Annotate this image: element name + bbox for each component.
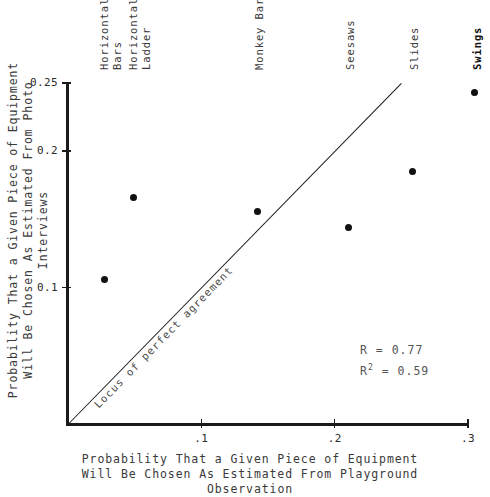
point-category-label: Monkey Bars [253, 0, 265, 70]
y-axis-title-line2: Will Be Chosen As Estimated From Photo I… [21, 50, 51, 410]
point-category-label: Seesaws [344, 19, 356, 70]
point-category-label: Slides [408, 27, 420, 70]
correlation-statistics: R = 0.77 R2 = 0.59 [360, 342, 429, 380]
x-axis-title: Probability That a Given Piece of Equipm… [40, 452, 460, 497]
data-point [254, 208, 261, 215]
r-value-label: R = 0.77 [360, 342, 429, 359]
point-category-label-line: Monkey Bars [253, 0, 265, 70]
data-point [409, 168, 416, 175]
point-category-label-line: Bars [111, 41, 123, 70]
point-category-label: HorizontalLadder [127, 0, 139, 70]
x-axis-tick-label: .1 [181, 432, 221, 445]
x-axis-tick [467, 419, 469, 428]
x-axis-title-line2: Will Be Chosen As Estimated From Playgro… [40, 467, 460, 497]
data-point [345, 224, 352, 231]
y-axis-title-line1: Probability That a Given Piece of Equipm… [6, 50, 21, 410]
point-category-label-line: Ladder [140, 27, 152, 70]
r-squared-suffix: = 0.59 [374, 364, 429, 378]
point-category-label-line: Seesaws [344, 19, 356, 70]
r-squared-value-label: R2 = 0.59 [360, 359, 429, 380]
y-axis-title: Probability That a Given Piece of Equipm… [6, 50, 51, 410]
y-axis-line [66, 83, 69, 426]
x-axis-line [66, 423, 469, 426]
point-category-label-line: Slides [408, 27, 420, 70]
point-category-label: HorizontalBars [98, 0, 110, 70]
r-squared-prefix: R [360, 364, 368, 378]
point-category-label-line: Swings [471, 27, 483, 70]
point-category-label-line: Horizontal [98, 0, 110, 70]
x-axis-title-line1: Probability That a Given Piece of Equipm… [40, 452, 460, 467]
point-category-label-line: Horizontal [127, 0, 139, 70]
x-axis-tick-label: .3 [448, 432, 488, 445]
data-point [130, 194, 137, 201]
locus-of-perfect-agreement-label: Locus of perfect agreement [92, 264, 235, 410]
point-category-label: Swings [471, 27, 483, 70]
x-axis-tick [334, 419, 336, 428]
data-point [471, 89, 478, 96]
x-axis-tick-label: .2 [315, 432, 355, 445]
y-axis-tick [62, 150, 71, 152]
data-point [101, 276, 108, 283]
y-axis-tick [62, 287, 71, 289]
x-axis-tick [201, 419, 203, 428]
y-axis-tick [62, 82, 71, 84]
